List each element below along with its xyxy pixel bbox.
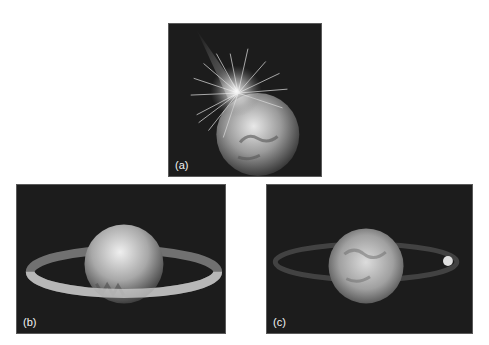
- moon-illustration: [267, 185, 472, 333]
- panel-c-moon: (c): [266, 184, 473, 334]
- moon: [443, 256, 453, 266]
- panel-label-c: (c): [273, 316, 286, 328]
- impact-flash: [210, 65, 261, 116]
- panel-label-b: (b): [23, 316, 36, 328]
- ring-illustration: [17, 185, 225, 333]
- panel-a-impact: (a): [168, 23, 322, 177]
- planet: [329, 228, 404, 303]
- panel-label-a: (a): [175, 159, 188, 171]
- panel-b-ring: (b): [16, 184, 226, 334]
- impact-illustration: [169, 24, 321, 176]
